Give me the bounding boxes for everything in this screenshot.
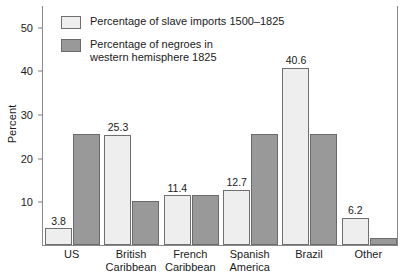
- bar-group: 3.8: [43, 6, 102, 245]
- y-tick-label-50: 50: [0, 22, 38, 33]
- y-tick-label-40: 40: [0, 66, 38, 77]
- bar: [282, 68, 309, 245]
- bar: [164, 195, 191, 245]
- x-tick-label: British Caribbean: [101, 248, 160, 273]
- x-tick-label: Brazil: [279, 248, 338, 261]
- x-tick-label: US: [42, 248, 101, 261]
- bar-value-label: 11.4: [159, 183, 196, 194]
- bar: [73, 134, 100, 245]
- bar: [192, 195, 219, 245]
- x-tick-label: Other: [339, 248, 398, 261]
- bar-value-label: 25.3: [100, 122, 137, 133]
- bar: [223, 190, 250, 245]
- y-tick-label-10: 10: [0, 197, 38, 208]
- figure-caption: [4, 272, 404, 278]
- bar: [45, 228, 72, 245]
- bar: [132, 201, 159, 245]
- plot-area: Percentage of slave imports 1500–1825 Pe…: [42, 6, 398, 246]
- x-tick-label: Spanish America: [220, 248, 279, 273]
- bar: [104, 135, 131, 245]
- bar: [342, 218, 369, 245]
- bar-chart-figure: Percent 1020304050 Percentage of slave i…: [0, 0, 408, 278]
- x-tick-label: French Caribbean: [161, 248, 220, 273]
- bar-value-label: 12.7: [218, 177, 255, 188]
- bar-group: 11.4: [162, 6, 221, 245]
- y-tick-label-20: 20: [0, 153, 38, 164]
- bar-group: 12.7: [221, 6, 280, 245]
- bar-group: 40.6: [280, 6, 339, 245]
- bar-value-label: 3.8: [40, 216, 77, 227]
- bar-value-label: 40.6: [278, 55, 315, 66]
- bar: [251, 134, 278, 245]
- y-tick-label-30: 30: [0, 110, 38, 121]
- bar: [310, 134, 337, 245]
- bar-group: 6.2: [340, 6, 399, 245]
- bar-value-label: 6.2: [337, 205, 374, 216]
- bar-series-container: 3.825.311.412.740.66.2: [43, 6, 397, 245]
- bar-group: 25.3: [102, 6, 161, 245]
- bar: [370, 238, 397, 245]
- y-axis-tick-labels: 1020304050: [0, 0, 38, 278]
